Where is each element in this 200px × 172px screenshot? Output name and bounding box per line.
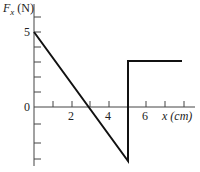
y-axis-label: Fx (N) (3, 1, 34, 17)
x-axis-label: x (cm) (162, 109, 192, 124)
x-tick-2: 2 (68, 109, 74, 124)
force-position-chart (0, 0, 200, 172)
x-tick-4: 4 (105, 109, 111, 124)
force-curve (34, 32, 182, 161)
y-tick-5: 5 (24, 25, 30, 40)
x-tick-6: 6 (142, 109, 148, 124)
y-tick-0: 0 (24, 100, 30, 115)
